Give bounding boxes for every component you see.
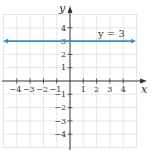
svg-text:4: 4	[121, 85, 126, 94]
svg-text:4: 4	[61, 24, 66, 33]
x-tick-labels: −4 −3 −2 −1 1 2 3 4	[10, 85, 126, 94]
svg-text:3: 3	[107, 85, 112, 94]
y-axis-label: y	[58, 2, 66, 15]
svg-text:−3: −3	[23, 85, 35, 94]
svg-text:−2: −2	[54, 103, 66, 112]
svg-text:−2: −2	[36, 85, 48, 94]
equation-label: y = 3	[97, 28, 125, 39]
svg-text:2: 2	[61, 50, 66, 59]
x-axis-label: x	[141, 83, 148, 96]
svg-text:−4: −4	[10, 85, 22, 94]
svg-text:1: 1	[61, 63, 66, 72]
coordinate-plane: −4 −3 −2 −1 1 2 3 4 4 3 2 1 −1 −2 −3 −4 …	[0, 0, 160, 156]
svg-text:−1: −1	[54, 90, 66, 99]
line-right-arrow-icon	[131, 39, 136, 44]
y-axis-arrow-icon	[68, 6, 73, 13]
svg-text:1: 1	[81, 85, 86, 94]
svg-text:−3: −3	[54, 117, 66, 126]
svg-text:2: 2	[94, 85, 99, 94]
svg-text:−4: −4	[54, 130, 66, 139]
